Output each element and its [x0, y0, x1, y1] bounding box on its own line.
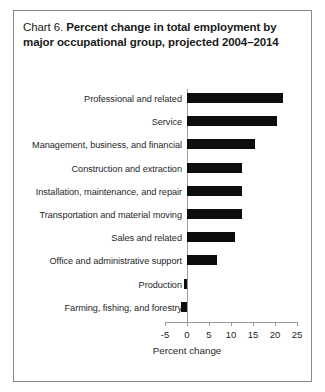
- x-axis-title: Percent change: [153, 345, 222, 356]
- bar-row: Service: [14, 112, 313, 135]
- category-label: Transportation and material moving: [40, 210, 182, 220]
- bar: [187, 93, 283, 103]
- x-tick-mark: [165, 322, 166, 326]
- category-label: Construction and extraction: [72, 164, 183, 174]
- x-tick-label: 15: [248, 329, 259, 340]
- bar: [187, 255, 217, 265]
- bar: [187, 232, 235, 242]
- bar-row: Installation, maintenance, and repair: [14, 182, 313, 205]
- category-label: Office and administrative support: [50, 256, 183, 266]
- bar: [187, 139, 255, 149]
- x-tick-label: 5: [206, 329, 211, 340]
- category-label: Sales and related: [111, 233, 182, 243]
- category-label: Professional and related: [84, 94, 182, 104]
- bar-row: Sales and related: [14, 228, 313, 251]
- category-label: Farming, fishing, and forestry: [65, 303, 182, 313]
- x-tick-label: 10: [226, 329, 237, 340]
- bar-row: Farming, fishing, and forestry: [14, 298, 313, 321]
- category-label: Installation, maintenance, and repair: [36, 187, 182, 197]
- x-tick-label: 25: [292, 329, 303, 340]
- x-tick-label: 0: [184, 329, 189, 340]
- bar-row: Office and administrative support: [14, 251, 313, 274]
- bar: [187, 163, 242, 173]
- bar-row: Management, business, and financial: [14, 135, 313, 158]
- x-tick-mark: [275, 322, 276, 326]
- x-tick-label: 20: [270, 329, 281, 340]
- bar: [187, 186, 242, 196]
- x-tick-label: -5: [161, 329, 169, 340]
- x-tick-mark: [231, 322, 232, 326]
- x-tick-mark: [253, 322, 254, 326]
- category-label: Production: [139, 280, 182, 290]
- category-label: Management, business, and financial: [32, 140, 182, 150]
- x-tick-mark: [209, 322, 210, 326]
- x-tick-mark: [297, 322, 298, 326]
- x-tick-mark: [187, 322, 188, 326]
- plot-area: -50510152025 Professional and relatedSer…: [14, 11, 313, 383]
- bar: [184, 279, 187, 289]
- bar: [181, 302, 187, 312]
- bar: [187, 209, 242, 219]
- bar: [187, 116, 277, 126]
- category-label: Service: [152, 117, 182, 127]
- bar-row: Professional and related: [14, 89, 313, 112]
- bar-row: Construction and extraction: [14, 159, 313, 182]
- bar-row: Production: [14, 275, 313, 298]
- bar-row: Transportation and material moving: [14, 205, 313, 228]
- chart-figure: Chart 6. Percent change in total employm…: [13, 10, 312, 382]
